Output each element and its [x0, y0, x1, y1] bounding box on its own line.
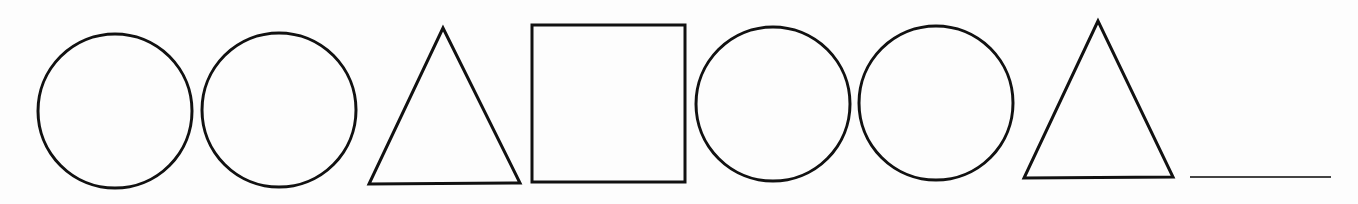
circle-shape-1 — [38, 34, 192, 188]
shape-canvas — [0, 0, 1358, 204]
square-shape — [532, 25, 685, 182]
circle-shape-3 — [696, 27, 850, 181]
circle-shape-2 — [202, 33, 356, 187]
circle-shape-4 — [859, 26, 1013, 180]
pattern-sequence: Shape sequence pattern — [0, 0, 1358, 204]
triangle-shape-1 — [369, 28, 520, 184]
triangle-shape-2 — [1024, 21, 1173, 178]
